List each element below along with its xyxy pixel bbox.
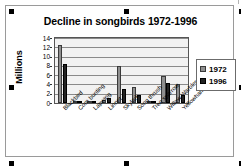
legend-item-1972[interactable]: 1972 [200,63,232,75]
embedded-chart-object[interactable]: Decline in songbirds 1972-1996 Millions … [5,5,234,157]
y-tick-mark-14 [50,38,52,39]
bar-1972-blackbird[interactable] [58,45,62,103]
y-tick-label-14: 14 [43,35,50,42]
selection-handle-top-right[interactable] [239,9,241,14]
selection-handle-top-left[interactable] [9,9,14,14]
legend-label-1996: 1996 [209,77,227,86]
y-axis-title: Millions [14,40,24,94]
selection-handle-middle-right[interactable] [239,85,241,90]
legend-swatch-1972 [200,66,206,72]
x-axis-category-labels: BlackbirdCorn buntingLapwingLinnetSkylar… [46,105,206,157]
y-tick-mark-8 [50,66,52,67]
selection-handle-top-center[interactable] [124,9,129,14]
legend-label-1972: 1972 [209,65,227,74]
y-tick-mark-12 [50,47,52,48]
selection-handle-bottom-right[interactable] [239,161,241,166]
selection-handle-bottom-left[interactable] [9,161,14,166]
y-axis-tick-labels: 02468101214 [34,33,52,108]
selection-handle-bottom-center[interactable] [124,161,129,166]
legend-item-1996[interactable]: 1996 [200,75,232,87]
y-tick-mark-2 [50,94,52,95]
selection-handle-middle-left[interactable] [9,85,14,90]
y-tick-label-10: 10 [43,53,50,60]
y-tick-mark-10 [50,57,52,58]
chart: Decline in songbirds 1972-1996 Millions … [6,6,235,158]
y-tick-mark-6 [50,75,52,76]
y-tick-label-12: 12 [43,44,50,51]
legend-swatch-1996 [200,78,206,84]
chart-title: Decline in songbirds 1972-1996 [6,15,235,27]
chart-legend: 19721996 [196,59,236,91]
bar-1996-blackbird[interactable] [63,64,67,103]
y-tick-mark-0 [50,103,52,104]
y-tick-mark-4 [50,84,52,85]
capture-corner-mark [238,0,239,4]
bar-1996-skylark[interactable] [122,89,126,103]
